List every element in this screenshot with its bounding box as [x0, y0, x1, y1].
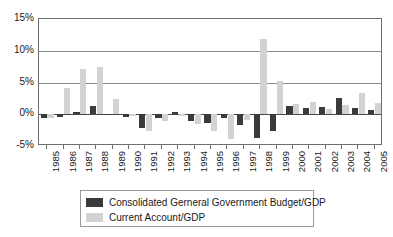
bar-budget: [303, 108, 309, 114]
bar-budget: [221, 114, 227, 118]
bar-group: [186, 19, 202, 144]
bar-budget: [286, 106, 292, 114]
x-axis-tick-label: 1997: [248, 151, 258, 172]
bar-current-account: [47, 114, 53, 118]
bar-budget: [41, 114, 47, 118]
bar-chart: -5%0%5%10%15% 19851986198719881989199019…: [0, 0, 393, 237]
x-axis-tick-mark: [325, 145, 326, 149]
bar-group: [55, 19, 71, 144]
y-axis-tick-label: 5%: [0, 77, 34, 87]
bar-group: [219, 19, 235, 144]
x-axis-tick-label: 2005: [379, 151, 389, 172]
bar-group: [154, 19, 170, 144]
x-axis-tick-mark: [112, 145, 113, 149]
y-axis: -5%0%5%10%15%: [0, 0, 34, 237]
bar-group: [121, 19, 137, 144]
x-axis-tick-label: 2004: [362, 151, 372, 172]
bar-group: [137, 19, 153, 144]
bar-group: [236, 19, 252, 144]
x-axis-tick-label: 2001: [313, 151, 323, 172]
x-axis-tick-mark: [308, 145, 309, 149]
bar-current-account: [326, 109, 332, 115]
y-axis-tick-label: -5%: [0, 140, 34, 150]
x-axis-tick-mark: [95, 145, 96, 149]
x-axis-tick-label: 1999: [281, 151, 291, 172]
bar-group: [252, 19, 268, 144]
x-axis-tick-label: 1993: [182, 151, 192, 172]
bar-budget: [172, 112, 178, 114]
bar-budget: [57, 114, 63, 117]
legend-item-budget: Consolidated Gerneral Government Budget/…: [86, 195, 313, 209]
x-axis-tick-label: 1986: [68, 151, 78, 172]
x-axis-tick-mark: [210, 145, 211, 149]
bar-current-account: [342, 105, 348, 115]
bar-group: [203, 19, 219, 144]
y-axis-tick-label: 0%: [0, 108, 34, 118]
x-axis: 1985198619871988198919901991199219931994…: [38, 145, 382, 195]
x-axis-tick-label: 1992: [166, 151, 176, 172]
legend-swatch-current-account: [86, 213, 103, 222]
bar-budget: [139, 114, 145, 128]
bar-group: [317, 19, 333, 144]
x-axis-tick-mark: [161, 145, 162, 149]
plot-area: [38, 18, 382, 145]
bar-current-account: [97, 67, 103, 114]
x-axis-tick-label: 2003: [346, 151, 356, 172]
x-axis-tick-mark: [276, 145, 277, 149]
bar-current-account: [310, 102, 316, 114]
x-axis-tick-mark: [374, 145, 375, 149]
legend-label-current-account: Current Account/GDP: [109, 212, 205, 223]
x-axis-tick-label: 1994: [199, 151, 209, 172]
bar-current-account: [359, 93, 365, 114]
bar-budget: [73, 112, 79, 115]
chart-legend: Consolidated Gerneral Government Budget/…: [80, 190, 314, 227]
x-axis-tick-label: 1989: [117, 151, 127, 172]
bar-current-account: [64, 88, 70, 115]
x-axis-tick-label: 1996: [231, 151, 241, 172]
bars-layer: [39, 19, 381, 144]
bar-group: [350, 19, 366, 144]
x-axis-tick-mark: [243, 145, 244, 149]
x-axis-tick-mark: [79, 145, 80, 149]
x-axis-tick-label: 2002: [330, 151, 340, 172]
bar-current-account: [277, 81, 283, 115]
legend-item-current-account: Current Account/GDP: [86, 210, 313, 224]
bar-current-account: [228, 114, 234, 139]
x-axis-tick-mark: [177, 145, 178, 149]
bar-budget: [336, 98, 342, 115]
x-axis-tick-mark: [46, 145, 47, 149]
bar-current-account: [146, 114, 152, 131]
legend-swatch-budget: [86, 198, 103, 207]
x-axis-tick-mark: [194, 145, 195, 149]
x-axis-tick-label: 1987: [84, 151, 94, 172]
x-axis-tick-label: 2000: [297, 151, 307, 172]
bar-current-account: [179, 114, 185, 115]
x-axis-tick-label: 1985: [51, 151, 61, 172]
x-axis-tick-label: 1990: [133, 151, 143, 172]
bar-group: [301, 19, 317, 144]
x-axis-tick-mark: [292, 145, 293, 149]
bar-group: [72, 19, 88, 144]
bar-budget: [270, 114, 276, 131]
x-axis-tick-mark: [259, 145, 260, 149]
bar-budget: [319, 107, 325, 114]
x-axis-tick-mark: [226, 145, 227, 149]
x-axis-tick-mark: [341, 145, 342, 149]
bar-current-account: [244, 114, 250, 120]
bar-group: [334, 19, 350, 144]
bar-current-account: [293, 104, 299, 114]
bar-current-account: [80, 69, 86, 114]
x-axis-tick-mark: [63, 145, 64, 149]
y-axis-tick-label: 15%: [0, 13, 34, 23]
bar-current-account: [129, 114, 135, 115]
bar-current-account: [375, 103, 381, 114]
bar-budget: [352, 108, 358, 114]
bar-budget: [188, 114, 194, 120]
x-axis-tick-label: 1991: [149, 151, 159, 172]
bar-group: [268, 19, 284, 144]
bar-current-account: [260, 39, 266, 115]
bar-budget: [237, 114, 243, 125]
bar-budget: [254, 114, 260, 138]
x-axis-tick-mark: [128, 145, 129, 149]
y-axis-tick-label: 10%: [0, 45, 34, 55]
